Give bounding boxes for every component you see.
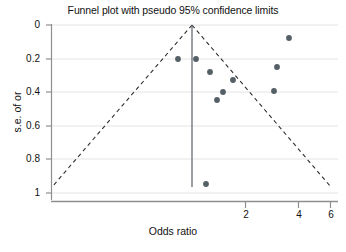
- x-tick-label-6: 6: [319, 209, 343, 220]
- data-point: [230, 77, 236, 83]
- data-point: [193, 56, 199, 62]
- funnel-plot-figure: Funnel plot with pseudo 95% confidence l…: [0, 0, 346, 252]
- data-point: [214, 97, 220, 103]
- y-tick-label-0-2: 0.2: [6, 53, 40, 64]
- data-point: [175, 56, 181, 62]
- y-tick-label-0: 0: [6, 19, 40, 30]
- data-point: [274, 64, 280, 70]
- data-points: [175, 35, 292, 187]
- x-tick-label-4: 4: [287, 209, 311, 220]
- data-point: [286, 35, 292, 41]
- data-point: [203, 181, 209, 187]
- gridlines: [52, 25, 338, 193]
- y-tick-label-1: 1: [6, 187, 40, 198]
- data-point: [271, 88, 277, 94]
- data-point: [220, 89, 226, 95]
- data-point: [207, 69, 213, 75]
- y-axis-title: s.e. of or: [11, 64, 23, 160]
- x-axis: [51, 201, 338, 208]
- caption-fragment: [0, 243, 346, 252]
- y-axis: [46, 24, 52, 200]
- x-axis-title: Odds ratio: [0, 225, 346, 237]
- x-tick-label-2: 2: [234, 209, 258, 220]
